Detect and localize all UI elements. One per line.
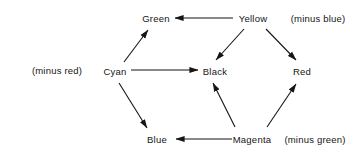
color-mixing-diagram: GreenYellowCyanBlackRedBlueMagenta (minu… bbox=[0, 0, 362, 156]
node-label-cyan: Cyan bbox=[103, 66, 126, 77]
arrow-yellow-to-red bbox=[266, 29, 296, 60]
annotation-minus-green: (minus green) bbox=[284, 134, 345, 145]
arrow-cyan-to-green bbox=[124, 30, 148, 62]
node-label-green: Green bbox=[142, 13, 170, 24]
annotation-minus-blue: (minus blue) bbox=[291, 13, 346, 24]
arrow-yellow-to-black bbox=[216, 29, 244, 60]
node-label-yellow: Yellow bbox=[239, 13, 268, 24]
arrow-cyan-to-blue bbox=[119, 83, 147, 128]
arrow-magenta-to-black bbox=[213, 83, 235, 127]
node-label-red: Red bbox=[293, 66, 311, 77]
node-label-magenta: Magenta bbox=[233, 134, 272, 145]
edges-group bbox=[119, 18, 296, 139]
node-label-blue: Blue bbox=[147, 134, 167, 145]
annotation-minus-red: (minus red) bbox=[32, 65, 82, 76]
arrow-magenta-to-red bbox=[267, 84, 296, 127]
node-label-black: Black bbox=[203, 66, 227, 77]
